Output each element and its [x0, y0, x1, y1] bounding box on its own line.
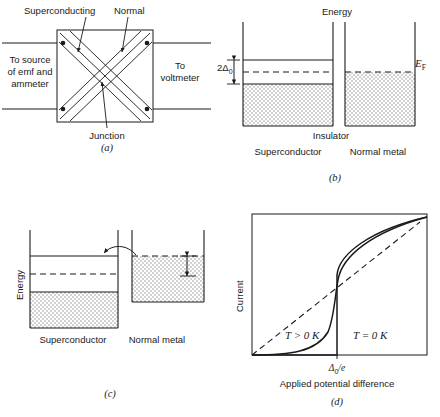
panel-d-caption: (d)	[331, 396, 343, 407]
sc-filled-band	[243, 84, 333, 126]
panel-a: Superconducting Normal To source of emf …	[0, 0, 215, 190]
contact-dot-bottom-right	[145, 107, 150, 112]
panel-c-drawing	[0, 200, 220, 355]
leader-junction	[102, 82, 107, 128]
sc-filled-band-biased	[30, 292, 118, 328]
nm-filled-band	[345, 72, 415, 126]
contact-dot-top-left	[61, 41, 66, 46]
tunneling-curved-arrow-icon	[104, 246, 136, 255]
panel-d-xlabel: Applied potential difference	[280, 378, 394, 389]
panel-b-drawing	[215, 0, 440, 150]
leader-superconducting	[78, 17, 86, 52]
panel-c-caption: (c)	[104, 388, 116, 399]
contact-dot-top-right	[145, 41, 150, 46]
nm-filled-band-c	[132, 256, 204, 302]
panel-c: Energy eV Superconductor Normal metal (c…	[0, 200, 220, 417]
contact-dot-bottom-left	[61, 107, 66, 112]
panel-b-caption: (b)	[329, 172, 341, 183]
panel-d: Current Applied potential difference Δ0/…	[220, 200, 440, 417]
panel-a-caption: (a)	[101, 142, 113, 153]
panel-b: Energy 2Δ0 EF Insulator Superconductor N…	[215, 0, 440, 192]
panel-d-plot	[220, 200, 440, 375]
panel-a-drawing	[0, 0, 215, 150]
